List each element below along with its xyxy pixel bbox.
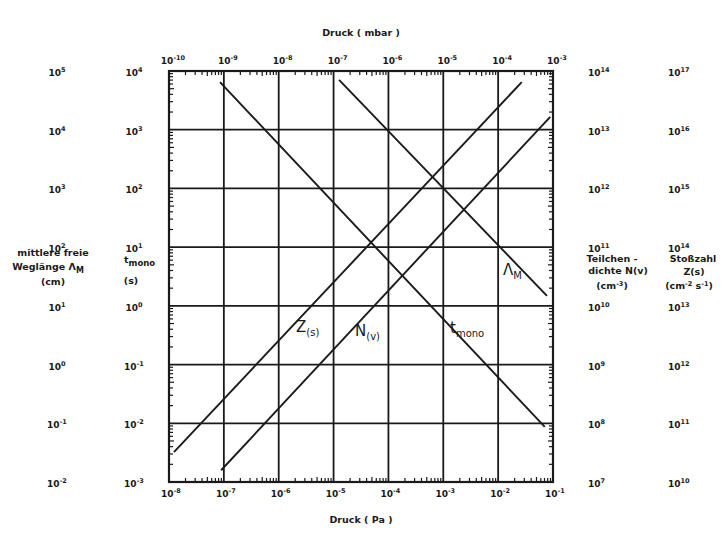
tmono-tick-label: 10-1	[124, 360, 144, 372]
series-line-N	[221, 117, 550, 470]
curve-labels: tmonoΛMZ(s)N(v)	[296, 261, 522, 342]
curve-label-lambda: ΛM	[503, 261, 522, 281]
bottom-tick-label: 10-3	[435, 487, 455, 499]
N-tick-label: 107	[588, 477, 605, 489]
Z-tick-label: 1016	[668, 125, 690, 137]
series-lines	[174, 80, 550, 470]
svg-text:(s): (s)	[124, 275, 138, 286]
Z-tick-label: 1017	[668, 66, 690, 78]
tmono-tick-label: 10-3	[124, 477, 144, 489]
series-line-tmono	[220, 82, 545, 427]
tmono-tick-label: 103	[125, 125, 142, 137]
Z-tick-label: 1010	[668, 477, 690, 489]
N-tick-label: 1010	[588, 301, 610, 313]
bottom-tick-label: 10-5	[326, 487, 346, 499]
Z-tick-label: 1011	[668, 418, 690, 430]
left-inner-axis-title: tmono (s)	[124, 254, 155, 286]
series-line-Z	[174, 82, 522, 452]
N-tick-label: 109	[588, 360, 606, 372]
top-tick-label: 10-10	[161, 54, 186, 66]
tmono-tick-label: 10-2	[124, 418, 144, 430]
top-tick-label: 10-6	[383, 54, 403, 66]
svg-text:Stoßzahl: Stoßzahl	[670, 253, 717, 264]
lambda-tick-label: 10-1	[47, 418, 67, 430]
Z-tick-label: 1012	[668, 360, 690, 372]
N-tick-label: 108	[588, 418, 606, 430]
svg-text:dichte N(v): dichte N(v)	[588, 265, 648, 276]
curve-label-N: N(v)	[355, 322, 380, 342]
bottom-axis-title: Druck ( Pa )	[329, 514, 392, 525]
bottom-tick-label: 10-1	[545, 487, 565, 499]
vacuum-chart: 10-1010-910-810-710-610-510-410-310-810-…	[0, 0, 724, 545]
top-tick-label: 10-5	[437, 54, 457, 66]
svg-text:tmono: tmono	[124, 254, 155, 268]
right-outer-axis-title: Stoßzahl Z(s) (cm-2 s-1)	[665, 253, 716, 291]
svg-text:mittlere freie: mittlere freie	[17, 247, 88, 258]
tmono-tick-label: 101	[125, 242, 143, 254]
curve-label-tmono: tmono	[450, 319, 484, 339]
bottom-tick-label: 10-8	[161, 487, 181, 499]
tmono-tick-label: 104	[125, 66, 143, 78]
top-tick-label: 10-4	[492, 54, 512, 66]
top-axis-title: Druck ( mbar )	[322, 27, 400, 38]
bottom-tick-label: 10-7	[216, 487, 236, 499]
axis-tick-labels: 10-1010-910-810-710-610-510-410-310-810-…	[47, 54, 690, 499]
svg-text:Z(s): Z(s)	[683, 266, 704, 277]
lambda-tick-label: 101	[48, 301, 66, 313]
top-tick-label: 10-3	[547, 54, 567, 66]
left-outer-axis-title: mittlere freie Weglänge ΛM (cm)	[12, 247, 89, 287]
Z-tick-label: 1015	[668, 183, 690, 195]
N-tick-label: 1013	[588, 125, 610, 137]
lambda-tick-label: 100	[48, 360, 66, 372]
plot-frame	[169, 71, 553, 482]
minor-ticks	[169, 71, 553, 482]
N-tick-label: 1012	[588, 183, 610, 195]
tmono-tick-label: 100	[125, 301, 143, 313]
curve-label-Z: Z(s)	[296, 318, 319, 338]
lambda-tick-label: 104	[48, 125, 66, 137]
svg-text:(cm-2 s-1): (cm-2 s-1)	[665, 280, 713, 291]
lambda-tick-label: 10-2	[47, 477, 67, 489]
svg-text:Teilchen -: Teilchen -	[586, 253, 637, 264]
top-tick-label: 10-8	[273, 54, 293, 66]
bottom-tick-label: 10-6	[271, 487, 291, 499]
bottom-tick-label: 10-4	[381, 487, 401, 499]
Z-tick-label: 1013	[668, 301, 690, 313]
lambda-tick-label: 103	[48, 183, 65, 195]
svg-text:Weglänge ΛM: Weglänge ΛM	[12, 261, 84, 275]
tmono-tick-label: 102	[125, 183, 142, 195]
plot-grid	[169, 71, 553, 482]
top-tick-label: 10-7	[328, 54, 348, 66]
N-tick-label: 1014	[588, 66, 610, 78]
right-inner-axis-title: Teilchen - dichte N(v) (cm-3)	[586, 253, 647, 291]
svg-text:(cm-3): (cm-3)	[596, 280, 627, 291]
bottom-tick-label: 10-2	[490, 487, 510, 499]
svg-text:(cm): (cm)	[41, 276, 65, 287]
lambda-tick-label: 105	[48, 66, 66, 78]
top-tick-label: 10-9	[218, 54, 238, 66]
